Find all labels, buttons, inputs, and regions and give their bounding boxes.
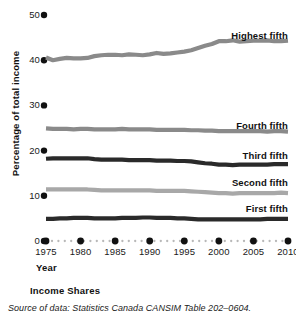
series-label-second-fifth: Second fifth xyxy=(232,177,288,188)
series-line xyxy=(46,189,288,193)
y-axis-title: Percentage of total income xyxy=(10,39,21,189)
chart-plot-area: 01020304050 Highest fifthFourth fifthThi… xyxy=(0,0,296,258)
x-axis-title: Year xyxy=(36,262,57,273)
series-label-highest-fifth: Highest fifth xyxy=(231,30,288,41)
y-axis-tick-label: 50 xyxy=(14,10,40,20)
x-axis-tick-labels: 19751980198519901995200020052010 xyxy=(0,246,296,260)
series-line xyxy=(46,40,288,60)
y-axis-tick-label: 10 xyxy=(14,191,40,201)
y-axis-tick-label: 0 xyxy=(14,236,40,246)
x-axis-tick-label: 2010 xyxy=(268,246,296,257)
series-line xyxy=(46,217,288,219)
caption-title: Income Shares xyxy=(30,285,100,296)
series-label-fourth-fifth: Fourth fifth xyxy=(236,120,288,131)
series-label-third-fifth: Third fifth xyxy=(243,150,288,161)
series-label-first-fifth: First fifth xyxy=(246,203,288,214)
income-shares-figure: 01020304050 Highest fifthFourth fifthThi… xyxy=(0,0,296,319)
caption-source: Source of data: Statistics Canada CANSIM… xyxy=(8,303,251,313)
